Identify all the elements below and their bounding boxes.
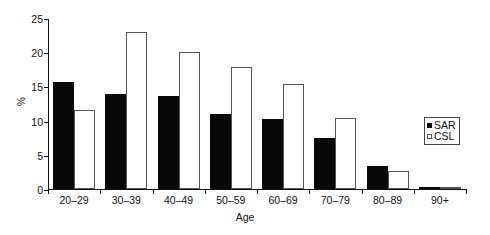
y-axis-tick-mark [44, 19, 49, 20]
x-axis-tick-label: 50–59 [205, 194, 257, 206]
y-axis-tick-mark [44, 53, 49, 54]
bar-sar-2 [158, 96, 179, 189]
bar-sar-4 [262, 119, 283, 189]
bar-sar-6 [367, 166, 388, 189]
bar-csl-3 [231, 67, 252, 189]
x-axis-tick-label: 40–49 [153, 194, 205, 206]
bar-csl-5 [335, 118, 356, 189]
bar-group [210, 19, 252, 189]
y-axis-tick-label: 25 [19, 14, 43, 24]
y-axis-tick-label: 15 [19, 82, 43, 92]
bar-group [419, 19, 461, 189]
bar-csl-1 [126, 32, 147, 189]
bar-csl-6 [388, 171, 409, 189]
plot-area [48, 19, 466, 190]
x-axis-tick-label: 20–29 [48, 194, 100, 206]
bar-csl-7 [440, 187, 461, 189]
y-axis-tick-mark [44, 87, 49, 88]
y-axis-tick-label: 10 [19, 117, 43, 127]
y-axis-tick-labels: 0510152025 [19, 0, 43, 235]
bar-group [314, 19, 356, 189]
x-axis-label: Age [0, 211, 490, 223]
y-axis-tick-label: 5 [19, 151, 43, 161]
legend-swatch-open-square-icon [427, 134, 432, 139]
legend-label-csl: CSL [434, 131, 454, 142]
bar-group [367, 19, 409, 189]
x-axis-tick-label: 70–79 [309, 194, 361, 206]
y-axis-tick-label: 20 [19, 48, 43, 58]
bar-chart: % 0510152025 Age SAR CSL 20–2930–3940–49… [0, 0, 490, 235]
y-axis-tick-label: 0 [19, 185, 43, 195]
bar-group [105, 19, 147, 189]
bar-sar-1 [105, 94, 126, 189]
bar-sar-0 [53, 82, 74, 189]
x-axis-tick-mark [466, 189, 467, 194]
x-axis-tick-label: 30–39 [100, 194, 152, 206]
bar-csl-0 [74, 110, 95, 189]
bar-sar-7 [419, 187, 440, 189]
bar-csl-2 [179, 52, 200, 189]
legend-swatch-filled-square-icon [427, 123, 432, 128]
bar-csl-4 [283, 84, 304, 189]
legend: SAR CSL [424, 117, 460, 145]
legend-item-csl: CSL [427, 131, 456, 142]
bar-sar-5 [314, 138, 335, 189]
bar-group [158, 19, 200, 189]
x-axis-tick-label: 60–69 [257, 194, 309, 206]
bar-sar-3 [210, 114, 231, 189]
x-axis-tick-label: 90+ [414, 194, 466, 206]
x-axis-tick-label: 80–89 [362, 194, 414, 206]
bar-group [53, 19, 95, 189]
bar-group [262, 19, 304, 189]
y-axis-tick-mark [44, 122, 49, 123]
y-axis-tick-mark [44, 156, 49, 157]
y-axis-line [48, 19, 49, 190]
